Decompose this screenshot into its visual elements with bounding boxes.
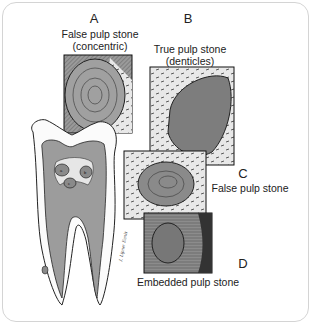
panel-b-image <box>150 67 234 165</box>
panel-a-letter: A <box>84 13 104 25</box>
panel-b-caption-line2: (denticles) <box>140 55 240 67</box>
panel-d-letter: D <box>233 258 253 270</box>
marker-c <box>64 178 76 188</box>
panel-d-image <box>144 213 212 273</box>
panel-c-image <box>124 151 206 219</box>
panel-c-letter: C <box>233 168 253 180</box>
panel-c-caption: False pulp stone <box>205 182 295 194</box>
panel-b-letter: B <box>178 13 198 25</box>
panel-a-caption-line1: False pulp stone <box>50 28 150 40</box>
tooth-diagram: a b c <box>32 120 117 305</box>
svg-text:c: c <box>68 181 70 186</box>
panel-a-caption-line2: (concentric) <box>50 40 150 52</box>
panel-d-caption: Embedded pulp stone <box>128 276 248 288</box>
panel-a-image <box>64 55 132 133</box>
panel-b-caption-line1: True pulp stone <box>140 43 240 55</box>
marker-d <box>42 266 48 274</box>
artist-signature: J. Lipner Ennis <box>118 231 128 262</box>
